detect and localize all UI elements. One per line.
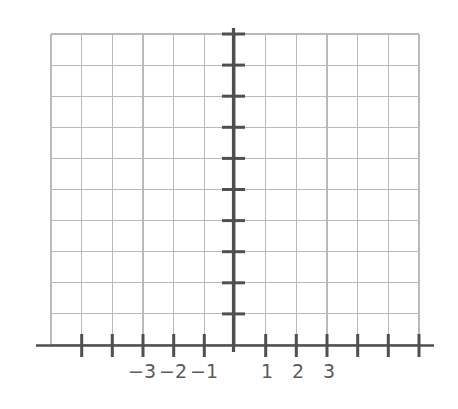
x-axis-tick-label-neg3: −3 <box>128 362 156 381</box>
coordinate-grid-figure: −3 −2 −1 1 2 3 <box>0 0 458 409</box>
x-axis-tick-label-neg1: −1 <box>190 362 218 381</box>
y-axis <box>222 28 245 352</box>
x-axis-tick-label-3: 3 <box>323 362 335 381</box>
x-axis-tick-label-neg2: −2 <box>159 362 187 381</box>
x-axis-tick-label-1: 1 <box>261 362 273 381</box>
grid-svg <box>0 0 458 409</box>
x-axis-tick-label-2: 2 <box>292 362 304 381</box>
